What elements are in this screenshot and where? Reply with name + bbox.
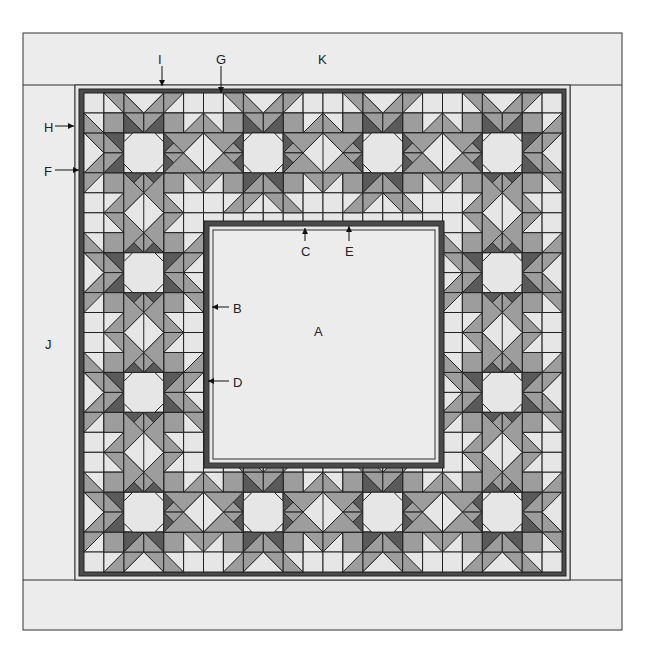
quilt-diagram: [0, 0, 651, 671]
label-b: B: [233, 302, 242, 315]
label-j: J: [45, 338, 52, 351]
label-k: K: [318, 53, 327, 66]
label-h: H: [44, 121, 53, 134]
label-a: A: [314, 325, 323, 338]
label-f: F: [44, 165, 52, 178]
label-d: D: [233, 376, 242, 389]
label-g: G: [216, 53, 226, 66]
center-panel-a: [204, 221, 444, 468]
label-i: I: [158, 53, 162, 66]
label-c: C: [301, 245, 310, 258]
label-e: E: [345, 245, 354, 258]
